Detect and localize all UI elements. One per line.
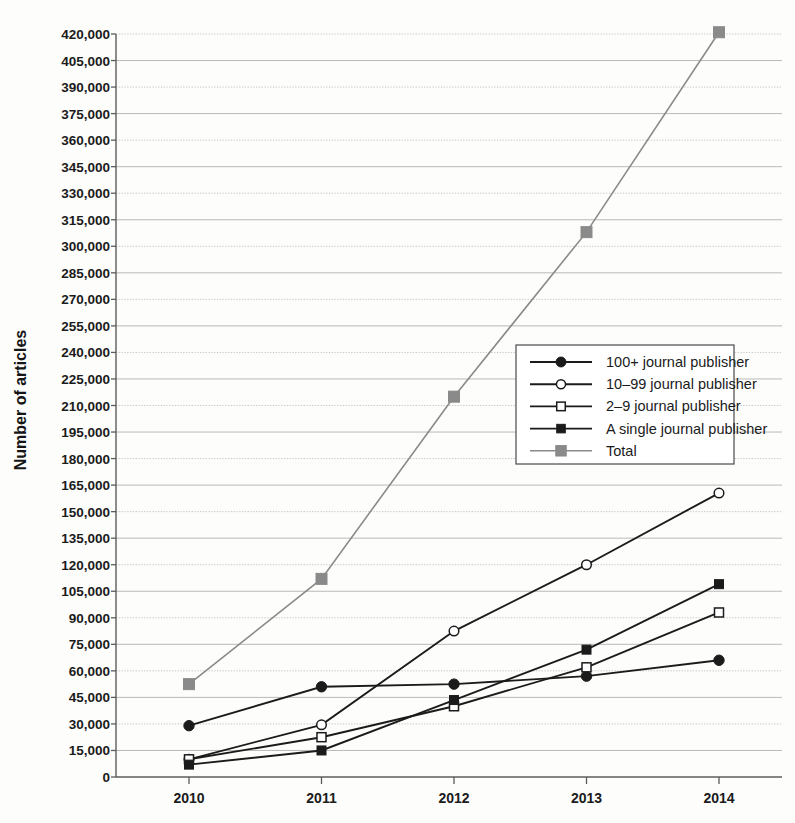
marker-open-circle — [556, 380, 565, 389]
marker-total-square — [556, 446, 566, 456]
legend-item-label: Total — [606, 443, 637, 459]
y-axis-title: Number of articles — [12, 330, 29, 471]
series-line — [189, 660, 719, 725]
y-tick-label: 270,000 — [61, 292, 110, 307]
legend-item-label: A single journal publisher — [606, 421, 767, 437]
chart-figure: 015,00030,00045,00060,00075,00090,000105… — [0, 0, 795, 823]
marker-filled-square — [557, 424, 566, 433]
marker-filled-square — [450, 696, 459, 705]
y-tick-label: 300,000 — [61, 239, 110, 254]
marker-total-square — [184, 679, 195, 690]
y-tick-label: 45,000 — [69, 690, 110, 705]
y-tick-label: 150,000 — [61, 505, 110, 520]
marker-filled-circle — [556, 357, 566, 367]
chart-legend: 100+ journal publisher10–99 journal publ… — [516, 345, 767, 464]
marker-filled-square — [185, 760, 194, 769]
y-tick-label: 30,000 — [69, 717, 110, 732]
y-tick-label: 420,000 — [61, 27, 110, 42]
y-tick-label: 90,000 — [69, 611, 110, 626]
marker-open-circle — [714, 488, 724, 498]
legend-item-label: 100+ journal publisher — [606, 354, 749, 370]
series-1 — [184, 488, 724, 764]
line-chart-canvas: 015,00030,00045,00060,00075,00090,000105… — [0, 0, 795, 823]
marker-open-square — [582, 663, 591, 672]
y-tick-label: 120,000 — [61, 558, 110, 573]
x-tick-label: 2011 — [306, 790, 337, 806]
marker-open-circle — [582, 560, 592, 570]
y-tick-label: 285,000 — [61, 266, 110, 281]
y-tick-label: 75,000 — [69, 637, 110, 652]
marker-open-square — [557, 402, 566, 411]
marker-total-square — [581, 227, 592, 238]
y-tick-label: 195,000 — [61, 425, 110, 440]
y-tick-label: 60,000 — [69, 664, 110, 679]
marker-total-square — [449, 391, 460, 402]
marker-filled-circle — [316, 682, 326, 692]
y-tick-label: 210,000 — [61, 399, 110, 414]
y-tick-label: 180,000 — [61, 452, 110, 467]
y-tick-label: 390,000 — [61, 80, 110, 95]
y-tick-label: 225,000 — [61, 372, 110, 387]
y-tick-label: 345,000 — [61, 160, 110, 175]
marker-filled-circle — [449, 679, 459, 689]
y-tick-label: 255,000 — [61, 319, 110, 334]
legend-item-label: 10–99 journal publisher — [606, 376, 757, 392]
y-tick-label: 15,000 — [69, 743, 110, 758]
marker-filled-circle — [184, 720, 194, 730]
y-tick-label: 135,000 — [61, 531, 110, 546]
marker-filled-square — [317, 746, 326, 755]
y-tick-label: 405,000 — [61, 54, 110, 69]
marker-filled-square — [582, 645, 591, 654]
y-tick-label: 375,000 — [61, 107, 110, 122]
y-tick-label: 240,000 — [61, 345, 110, 360]
series-line — [189, 584, 719, 764]
marker-total-square — [714, 27, 725, 38]
x-tick-label: 2014 — [703, 790, 734, 806]
series-3 — [185, 580, 724, 769]
x-tick-label: 2010 — [173, 790, 204, 806]
y-tick-labels: 015,00030,00045,00060,00075,00090,000105… — [61, 27, 116, 785]
y-tick-label: 330,000 — [61, 186, 110, 201]
x-tick-label: 2012 — [438, 790, 469, 806]
x-tick-label: 2013 — [571, 790, 602, 806]
y-tick-label: 315,000 — [61, 213, 110, 228]
y-tick-label: 360,000 — [61, 133, 110, 148]
marker-open-square — [317, 733, 326, 742]
x-tick-labels: 20102011201220132014 — [173, 777, 734, 806]
marker-total-square — [316, 573, 327, 584]
marker-open-circle — [317, 720, 327, 730]
y-tick-label: 165,000 — [61, 478, 110, 493]
marker-filled-circle — [714, 655, 724, 665]
marker-open-circle — [449, 626, 459, 636]
y-tick-label: 105,000 — [61, 584, 110, 599]
legend-item-label: 2–9 journal publisher — [606, 398, 741, 414]
marker-filled-square — [715, 580, 724, 589]
marker-open-square — [715, 608, 724, 617]
series-0 — [184, 655, 724, 731]
y-tick-label: 0 — [102, 770, 110, 785]
